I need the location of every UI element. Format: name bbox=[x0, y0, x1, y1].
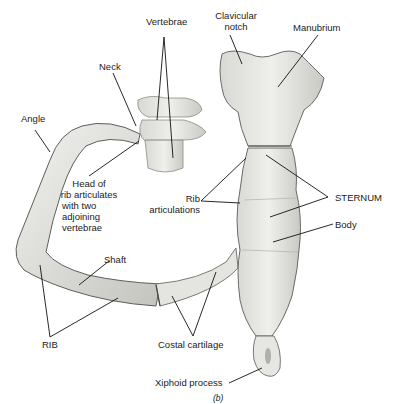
label-head-line2: rib articulates bbox=[52, 189, 126, 200]
label-angle: Angle bbox=[21, 113, 45, 124]
label-rib-articulations-line1: Rib bbox=[143, 193, 200, 204]
label-costal-cartilage: Costal cartilage bbox=[158, 339, 223, 350]
label-clavicular-notch: Clavicular notch bbox=[212, 10, 260, 32]
label-xiphoid-process: Xiphoid process bbox=[155, 377, 223, 388]
label-clavicular-notch-line1: Clavicular bbox=[212, 10, 260, 21]
label-shaft: Shaft bbox=[104, 254, 126, 265]
figure-caption: (b) bbox=[213, 393, 223, 404]
label-clavicular-notch-line2: notch bbox=[212, 21, 260, 32]
label-head-line1: Head of bbox=[52, 178, 126, 189]
label-body: Body bbox=[335, 219, 357, 230]
label-manubrium: Manubrium bbox=[293, 22, 341, 33]
label-head-line5: vertebrae bbox=[52, 222, 126, 233]
label-rib-articulations: Rib articulations bbox=[143, 193, 200, 215]
sternum-shape bbox=[220, 51, 324, 376]
label-head-line4: adjoining bbox=[52, 211, 126, 222]
label-sternum: STERNUM bbox=[335, 192, 382, 203]
label-head-line3: with two bbox=[52, 200, 126, 211]
label-vertebrae: Vertebrae bbox=[146, 16, 187, 27]
label-neck: Neck bbox=[99, 61, 121, 72]
vertebrae-shape bbox=[138, 96, 206, 172]
label-rib-articulations-line2: articulations bbox=[143, 204, 200, 215]
label-head-of-rib: Head of rib articulates with two adjoini… bbox=[52, 178, 126, 233]
label-rib: RIB bbox=[42, 339, 58, 350]
